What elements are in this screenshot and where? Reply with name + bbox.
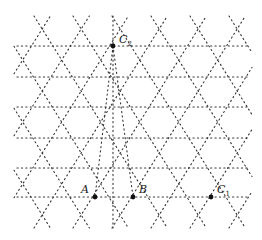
label-c2: C2 (119, 33, 132, 48)
label-a: A (80, 183, 89, 196)
diagonal-line (151, 16, 252, 177)
c2-a-line (95, 46, 113, 197)
c2-b-line (113, 46, 133, 197)
point-c1 (209, 195, 214, 200)
label-c1: C1 (217, 183, 230, 198)
lattice-points: C2ABC1 (80, 33, 230, 199)
diagonal-line (14, 16, 50, 74)
lattice-diagram: C2ABC1 (0, 0, 262, 240)
point-b (131, 195, 136, 200)
diagonal-line (14, 46, 128, 228)
diagonal-line (229, 16, 252, 53)
label-b: B (138, 183, 147, 196)
diagonal-line (190, 129, 252, 228)
diagonal-line (190, 16, 252, 115)
diagonal-line (151, 67, 252, 228)
point-a (93, 195, 98, 200)
point-c2 (111, 44, 116, 49)
diagonal-line (14, 170, 50, 228)
diagonal-line (14, 16, 89, 136)
